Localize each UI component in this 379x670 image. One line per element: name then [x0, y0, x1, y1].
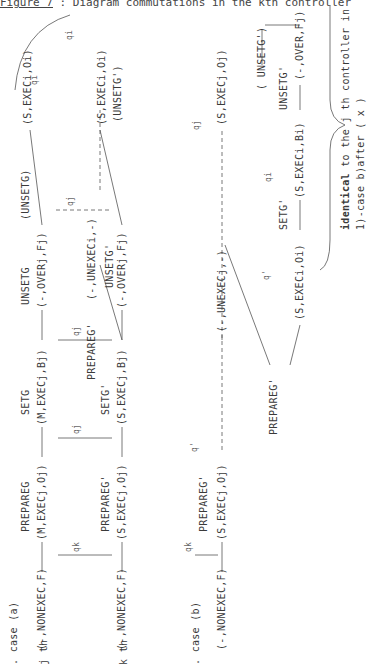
trans-k-2: PREPAREG' — [86, 323, 97, 380]
state-k-5: (S,EXECi,Oi) — [96, 49, 107, 125]
trans-k-4: (UNSETG') — [112, 65, 123, 122]
diagram-lines — [0, 0, 379, 670]
trans-j-0: PREPAREG — [20, 481, 31, 532]
state-j-0: (-,NONEXEC,F) — [36, 568, 47, 650]
case-a-label: . case (a) — [8, 602, 19, 665]
q-label-a2: qj — [72, 326, 81, 336]
state-k-1: (S,EXECj,Oj) — [116, 464, 127, 540]
state-b-1: (S,EXECj,Oj) — [216, 464, 227, 540]
note-line-2: 1)-case b)after ( x ) — [355, 97, 366, 230]
trans-b-0: PREPAREG' — [198, 475, 209, 532]
state-b-4: (S,EXECi,Oi) — [294, 244, 305, 320]
trans-k-1: SETG' — [100, 383, 111, 415]
trans-b-4: ( UNSETG') — [256, 27, 267, 90]
trans-j-3: (UNSETG) — [20, 169, 31, 220]
state-k-4: (-,OVERj,Fj) — [116, 232, 127, 308]
state-b-0: (-,NONEXEC,F) — [216, 568, 227, 650]
state-j-4: (S,EXECi,Oi) — [22, 49, 33, 125]
trans-j-2: UNSETG — [20, 267, 31, 305]
trans-b-3: UNSETG' — [278, 66, 289, 110]
state-b-2: (-,UNEXECj,-) — [216, 250, 227, 332]
q-label-b4: qj — [192, 120, 201, 130]
note-line-1: identical to the j th controller in — [340, 9, 351, 230]
q-label-a4: qi — [30, 75, 39, 85]
state-j-2: (M,EXECj,Bj) — [36, 349, 47, 425]
q-label-a1: qj — [72, 424, 81, 434]
state-j-1: (M,EXECj,Oj) — [36, 464, 47, 540]
state-k-0: (-,NONEXEC,F) — [116, 568, 127, 650]
q-label-a3: qj — [66, 196, 75, 206]
diagram-canvas: . case (a) j th k th (-,NONEXEC,F) (M,EX… — [0, 0, 379, 670]
state-k-3: (-,UNEXECi,-) — [86, 218, 97, 300]
state-k-2: (S,EXECj,Bj) — [116, 349, 127, 425]
trans-j-1: SETG — [20, 390, 31, 415]
case-b-label: . case (b) — [190, 602, 201, 665]
q-label-a5: qi — [65, 30, 74, 40]
q-label-a0: qk — [72, 542, 81, 552]
state-b-3: (S,EXECj,Oj) — [216, 49, 227, 125]
trans-k-3: UNSETG' — [104, 244, 115, 288]
state-b-6: (-,OVER,Fj) — [294, 10, 305, 80]
q-label-b1: q' — [190, 442, 199, 452]
note-bold: identical — [340, 173, 351, 230]
note-text: to the j th controller in — [340, 9, 351, 173]
q-label-b3: qi — [264, 172, 273, 182]
state-b-5: (S,EXECi,Bi) — [294, 122, 305, 198]
state-j-3: (-,OVERj,Fj) — [36, 232, 47, 308]
trans-b-2: SETG' — [278, 198, 289, 230]
trans-k-0: PREPAREG' — [100, 475, 111, 532]
q-label-b0: qk — [184, 542, 193, 552]
q-label-b2: q' — [262, 270, 271, 280]
trans-b-1: PREPAREG' — [268, 378, 279, 435]
